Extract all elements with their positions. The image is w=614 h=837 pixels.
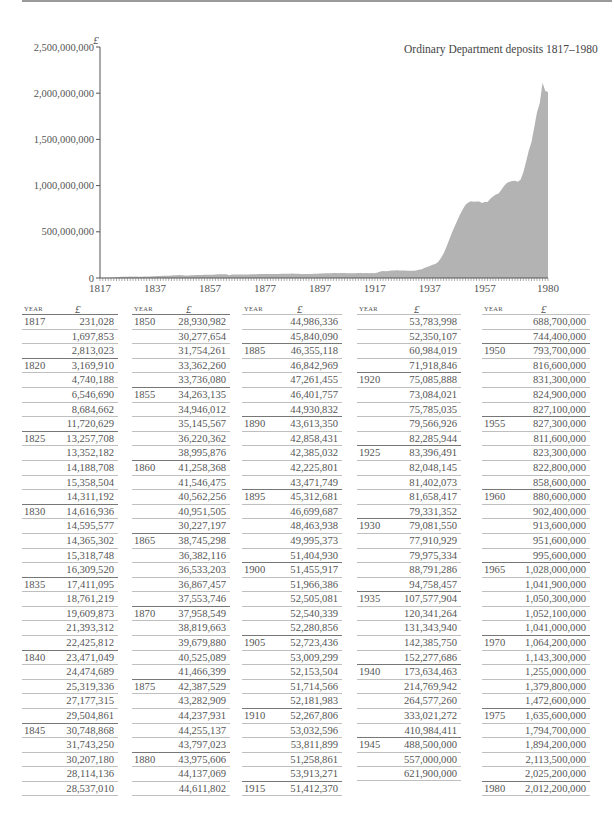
row-year: 1900 bbox=[244, 564, 265, 575]
row-value: 36,382,116 bbox=[179, 550, 226, 561]
row-year: 1910 bbox=[244, 710, 265, 721]
table-row: 31,754,261 bbox=[132, 343, 230, 358]
table-row: 14,188,708 bbox=[22, 460, 118, 475]
row-value: 52,267,806 bbox=[290, 710, 338, 721]
table-row: 811,600,000 bbox=[482, 431, 590, 446]
table-row: 52,280,856 bbox=[242, 620, 342, 635]
row-value: 557,000,000 bbox=[404, 754, 457, 765]
table-row: 2,113,500,000 bbox=[482, 752, 590, 767]
row-year: 1915 bbox=[244, 783, 265, 794]
row-value: 28,537,010 bbox=[66, 783, 114, 794]
table-row: 51,966,386 bbox=[242, 577, 342, 592]
table-row: 43,797,023 bbox=[132, 737, 230, 752]
row-value: 15,318,748 bbox=[66, 550, 114, 561]
table-row: 42,858,431 bbox=[242, 431, 342, 446]
table-row: 1,143,300,000 bbox=[482, 650, 590, 665]
table-row: 43,471,749 bbox=[242, 475, 342, 490]
row-value: 811,600,000 bbox=[533, 433, 586, 444]
table-row: 41,546,475 bbox=[132, 475, 230, 490]
table-row: 36,382,116 bbox=[132, 548, 230, 563]
table-row: 11,720,629 bbox=[22, 416, 118, 431]
table-row: 38,819,663 bbox=[132, 620, 230, 635]
table-row: 184023,471,049 bbox=[22, 650, 118, 665]
table-row: 21,393,312 bbox=[22, 620, 118, 635]
table-row: 45,840,090 bbox=[242, 329, 342, 344]
table-header: YEAR£ bbox=[357, 303, 461, 314]
table-row: 19651,028,000,000 bbox=[482, 562, 590, 577]
table-row: 831,300,000 bbox=[482, 372, 590, 387]
table-row: 621,900,000 bbox=[357, 766, 461, 781]
table-row: 19,609,873 bbox=[22, 606, 118, 621]
table-row: 36,220,362 bbox=[132, 431, 230, 446]
table-row: 88,791,286 bbox=[357, 562, 461, 577]
row-value: 13,257,708 bbox=[66, 433, 114, 444]
row-value: 44,930,832 bbox=[290, 404, 338, 415]
header-year: YEAR bbox=[484, 305, 503, 312]
table-row: 33,362,260 bbox=[132, 358, 230, 373]
row-value: 410,984,411 bbox=[404, 725, 457, 736]
table-row: 44,255,137 bbox=[132, 723, 230, 738]
row-value: 46,355,118 bbox=[291, 345, 338, 356]
row-value: 688,700,000 bbox=[533, 316, 586, 327]
row-value: 40,525,089 bbox=[178, 652, 226, 663]
row-value: 73,084,021 bbox=[409, 389, 457, 400]
x-tick-label: 1837 bbox=[144, 282, 167, 294]
row-value: 22,425,812 bbox=[66, 637, 114, 648]
table-row: 188546,355,118 bbox=[242, 343, 342, 358]
row-value: 142,385,750 bbox=[404, 637, 457, 648]
x-tick-label: 1817 bbox=[89, 282, 112, 294]
table-row: 37,553,746 bbox=[132, 591, 230, 606]
x-tick-label: 1957 bbox=[474, 282, 497, 294]
row-value: 53,009,299 bbox=[290, 652, 338, 663]
table-row: 191551,412,370 bbox=[242, 781, 342, 796]
table-row: 44,930,832 bbox=[242, 402, 342, 417]
row-year: 1840 bbox=[24, 652, 45, 663]
row-value: 79,331,352 bbox=[409, 506, 457, 517]
row-value: 6,546,690 bbox=[72, 389, 114, 400]
table-row: 1,894,200,000 bbox=[482, 737, 590, 752]
row-value: 1,894,200,000 bbox=[525, 739, 586, 750]
table-header: YEAR£ bbox=[482, 303, 590, 314]
row-value: 82,285,944 bbox=[409, 433, 457, 444]
table-row: 186538,745,298 bbox=[132, 533, 230, 548]
table-row: 951,600,000 bbox=[482, 533, 590, 548]
row-value: 51,714,566 bbox=[290, 681, 338, 692]
table-row: 46,401,757 bbox=[242, 387, 342, 402]
table-row: 185534,263,135 bbox=[132, 387, 230, 402]
row-year: 1980 bbox=[484, 783, 505, 794]
chart-title: Ordinary Department deposits 1817–1980 bbox=[404, 43, 598, 55]
row-value: 46,401,757 bbox=[290, 389, 338, 400]
row-value: 333,021,272 bbox=[404, 710, 457, 721]
table-row: 51,404,930 bbox=[242, 548, 342, 563]
row-value: 16,309,520 bbox=[66, 564, 114, 575]
table-row: 40,562,256 bbox=[132, 489, 230, 504]
row-value: 53,913,271 bbox=[290, 768, 338, 779]
row-value: 40,951,505 bbox=[178, 506, 226, 517]
table-row: 44,137,069 bbox=[132, 766, 230, 781]
row-value: 35,145,567 bbox=[178, 418, 226, 429]
table-row: 30,227,197 bbox=[132, 518, 230, 533]
row-value: 17,411,095 bbox=[67, 579, 114, 590]
row-value: 41,258,368 bbox=[178, 462, 226, 473]
table-row: 1817231,028 bbox=[22, 314, 118, 329]
row-value: 81,402,073 bbox=[409, 477, 457, 488]
table-row: 187542,387,529 bbox=[132, 679, 230, 694]
row-value: 15,358,504 bbox=[66, 477, 114, 488]
row-value: 131,343,940 bbox=[404, 622, 457, 633]
table-row: 183517,411,095 bbox=[22, 577, 118, 592]
row-year: 1930 bbox=[359, 520, 380, 531]
table-row: 36,867,457 bbox=[132, 577, 230, 592]
row-value: 27,177,315 bbox=[66, 695, 114, 706]
row-value: 14,365,302 bbox=[66, 535, 114, 546]
table-row: 191052,267,806 bbox=[242, 708, 342, 723]
row-value: 38,819,663 bbox=[178, 622, 226, 633]
row-value: 42,385,032 bbox=[290, 447, 338, 458]
table-row: 52,181,983 bbox=[242, 693, 342, 708]
y-tick-label: 500,000,000 bbox=[42, 226, 95, 237]
table-row: 1960880,600,000 bbox=[482, 489, 590, 504]
table-row: 190552,723,436 bbox=[242, 635, 342, 650]
x-tick-label: 1937 bbox=[419, 282, 442, 294]
table-row: 35,145,567 bbox=[132, 416, 230, 431]
x-tick-label: 1857 bbox=[199, 282, 222, 294]
table-row: 2,813,023 bbox=[22, 343, 118, 358]
